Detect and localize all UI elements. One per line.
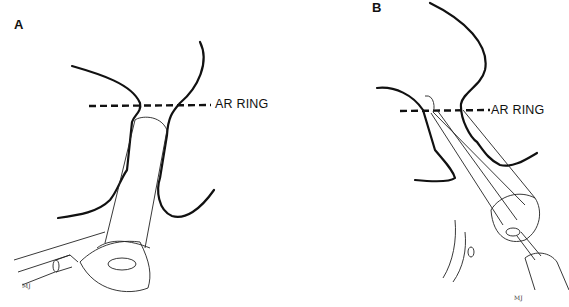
panel-b: B AR RING MJ [285, 0, 569, 307]
anoscope-illustration-a [0, 0, 285, 307]
ar-ring-label-a: AR RING [215, 97, 269, 111]
artist-signature-a: MJ [22, 282, 31, 289]
ar-ring-label-b: AR RING [491, 103, 545, 117]
panel-a: A AR RING MJ [0, 0, 285, 307]
panel-label-b: B [372, 0, 381, 15]
artist-signature-b: MJ [514, 294, 523, 301]
anoscope-illustration-b [285, 0, 569, 307]
panel-label-a: A [14, 17, 23, 32]
